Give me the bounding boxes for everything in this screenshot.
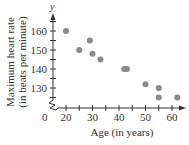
data-point	[87, 38, 93, 44]
y-tick-label: 140	[31, 63, 48, 75]
x-axis-arrow-icon	[179, 106, 186, 111]
axes	[49, 13, 186, 111]
y-tick-label: 150	[31, 44, 48, 56]
x-tick-label: 50	[140, 111, 152, 123]
x-axis-title: Age (in years)	[91, 126, 154, 139]
data-point	[90, 51, 96, 57]
x-tick-label: 40	[114, 111, 126, 123]
y-tick-labels: 130140150160	[31, 25, 48, 94]
data-point	[63, 28, 69, 34]
data-point	[97, 57, 103, 63]
data-point	[174, 95, 180, 101]
y-axis-variable: y	[49, 1, 55, 12]
scatter-chart: y 0 130140150160 2030405060 Maximum hear…	[0, 0, 189, 145]
x-tick-label: 20	[61, 111, 73, 123]
y-tick-label: 160	[31, 25, 48, 37]
data-point	[156, 95, 162, 101]
y-tick-label: 130	[31, 82, 48, 94]
data-point	[143, 81, 149, 87]
y-axis-title-line2: (in beats per minute)	[16, 16, 29, 108]
y-axis-title-line1: Maximum heart rate	[4, 17, 16, 107]
x-tick-label: 60	[167, 111, 179, 123]
x-tick-labels: 2030405060	[61, 111, 179, 123]
x-tick-label: 30	[87, 111, 99, 123]
y-axis-arrow-icon	[51, 13, 56, 20]
axis-break-icon	[49, 100, 58, 110]
origin-label: 0	[42, 111, 48, 123]
data-point	[124, 66, 130, 72]
data-point	[156, 85, 162, 91]
data-points	[63, 28, 180, 101]
data-point	[76, 47, 82, 53]
